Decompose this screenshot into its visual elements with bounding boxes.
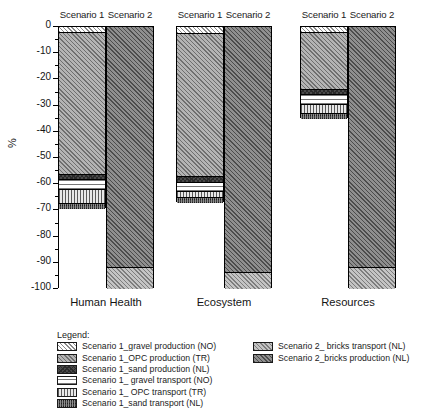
bar-segment-bricks-production-nl[interactable]: [107, 27, 153, 267]
legend-title: Legend:: [57, 330, 90, 340]
legend-item[interactable]: Scenario 1_ OPC transport (TR): [57, 387, 216, 398]
legend-item[interactable]: Scenario 2_ bricks transport (NL): [253, 341, 409, 352]
scenario-header-2: Scenario 2: [342, 9, 402, 20]
bar-segment-sand-transport-nl[interactable]: [301, 113, 347, 118]
legend-item-label: Scenario 1_sand production (NL): [82, 365, 210, 374]
bar-segment-opc-production-tr[interactable]: [301, 32, 347, 88]
legend-item[interactable]: Scenario 1_ gravel transport (NO): [57, 375, 216, 386]
bar-segment-bricks-production-nl[interactable]: [225, 27, 271, 272]
bar-scenario-2[interactable]: [348, 26, 396, 288]
legend-swatch-icon: [57, 388, 77, 397]
bar-segment-bricks-transport-nl[interactable]: [107, 267, 153, 289]
bar-segment-sand-transport-nl[interactable]: [59, 203, 105, 210]
bar-segment-gravel-transport-no[interactable]: [177, 182, 223, 191]
legend-swatch-icon: [57, 365, 77, 374]
y-axis-tick-label: -30: [5, 98, 51, 109]
legend-swatch-icon: [57, 342, 77, 351]
legend-column-left: Scenario 1_gravel production (NO)Scenari…: [57, 341, 216, 409]
legend-swatch-icon: [57, 354, 77, 363]
bar-scenario-1[interactable]: [176, 26, 224, 202]
legend-item-label: Scenario 1_ gravel transport (NO): [82, 376, 212, 385]
x-axis-category-label: Ecosystem: [152, 296, 296, 308]
bar-scenario-1[interactable]: [300, 26, 348, 118]
legend-swatch-icon: [57, 376, 77, 385]
bar-segment-opc-transport-tr[interactable]: [301, 104, 347, 113]
legend-item[interactable]: Scenario 1_sand production (NL): [57, 364, 216, 375]
legend-item-label: Scenario 1_sand transport (NL): [82, 399, 203, 408]
legend: Legend: Scenario 1_gravel production (NO…: [57, 330, 428, 418]
y-axis-tick-container: 0-10-20-30-40-50-60-70-80-90-100: [0, 0, 51, 310]
y-axis-tick-label: -50: [5, 150, 51, 161]
legend-item-label: Scenario 1_gravel production (NO): [82, 342, 216, 351]
bar-segment-bricks-transport-nl[interactable]: [349, 267, 395, 289]
y-axis-tick-label: -20: [5, 71, 51, 82]
legend-item-label: Scenario 1_ OPC transport (TR): [82, 388, 206, 397]
x-axis-category-label: Resources: [276, 296, 420, 308]
y-axis-tick-label: -10: [5, 45, 51, 56]
chart-root: % 0-10-20-30-40-50-60-70-80-90-100 Scena…: [0, 0, 428, 420]
bar-segment-gravel-transport-no[interactable]: [301, 94, 347, 104]
y-axis-tick-label: -90: [5, 255, 51, 266]
scenario-header-2: Scenario 2: [100, 9, 160, 20]
legend-swatch-icon: [57, 399, 77, 408]
legend-item-label: Scenario 2_ bricks transport (NL): [278, 342, 405, 351]
bar-scenario-2[interactable]: [106, 26, 154, 288]
panel-resources: Scenario 1Scenario 2Resources: [300, 0, 396, 310]
legend-item-label: Scenario 2_bricks production (NL): [278, 354, 409, 363]
scenario-header-2: Scenario 2: [218, 9, 278, 20]
bar-scenario-1[interactable]: [58, 26, 106, 208]
bar-segment-bricks-transport-nl[interactable]: [225, 272, 271, 289]
legend-item[interactable]: Scenario 1_gravel production (NO): [57, 341, 216, 352]
bar-segment-opc-transport-tr[interactable]: [59, 189, 105, 202]
legend-item-label: Scenario 1_OPC production (TR): [82, 354, 210, 363]
y-axis-tick-label: -40: [5, 124, 51, 135]
legend-item[interactable]: Scenario 2_bricks production (NL): [253, 352, 409, 363]
bar-segment-sand-transport-nl[interactable]: [177, 197, 223, 202]
y-axis-tick-label: -80: [5, 229, 51, 240]
bar-segment-gravel-transport-no[interactable]: [59, 179, 105, 189]
y-axis-tick-label: -70: [5, 202, 51, 213]
y-axis-tick-label: -60: [5, 176, 51, 187]
y-axis-tick-label: 0: [5, 19, 51, 30]
bar-segment-opc-production-tr[interactable]: [177, 33, 223, 176]
bar-scenario-2[interactable]: [224, 26, 272, 288]
legend-item[interactable]: Scenario 1_sand transport (NL): [57, 398, 216, 409]
bar-segment-bricks-production-nl[interactable]: [349, 27, 395, 267]
panel-ecosystem: Scenario 1Scenario 2Ecosystem: [176, 0, 272, 310]
legend-column-right: Scenario 2_ bricks transport (NL)Scenari…: [253, 341, 409, 364]
legend-item[interactable]: Scenario 1_OPC production (TR): [57, 352, 216, 363]
y-axis-tick-label: -100: [5, 281, 51, 292]
panel-human-health: Scenario 1Scenario 2Human Health: [58, 0, 154, 310]
legend-swatch-icon: [253, 342, 273, 351]
legend-swatch-icon: [253, 354, 273, 363]
bar-segment-opc-production-tr[interactable]: [59, 32, 105, 173]
